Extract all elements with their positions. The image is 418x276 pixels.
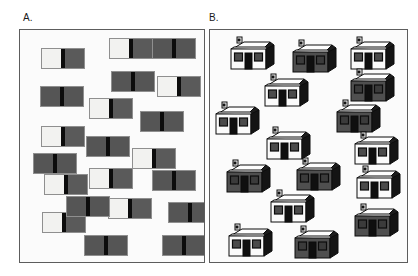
rectangle-right-half — [131, 39, 152, 58]
rectangle-centre-divider — [64, 175, 68, 194]
house-chimney-cap — [223, 104, 226, 107]
rectangle-left-half — [112, 72, 133, 91]
house-window-right — [379, 220, 387, 228]
house-door — [369, 148, 376, 164]
rectangle-left-half — [43, 213, 64, 232]
rectangle-centre-divider — [109, 169, 113, 188]
rectangle-right-half — [63, 49, 84, 68]
house-icon — [211, 100, 265, 140]
rectangle-left-half — [158, 77, 179, 96]
rectangle-left-half — [42, 127, 63, 146]
rectangle-right-half — [133, 72, 154, 91]
stimulus-rectangle — [41, 126, 85, 147]
rectangle-left-half — [141, 112, 162, 131]
house-side-wall — [264, 232, 272, 256]
house-icon — [350, 202, 404, 242]
house-icon — [352, 164, 406, 204]
house-window-right — [253, 240, 261, 248]
house-side-wall — [392, 174, 400, 198]
stimulus-house — [260, 72, 314, 112]
house-window-right — [361, 116, 369, 124]
house-window-left — [301, 174, 309, 182]
house-window-left — [269, 90, 277, 98]
house-door — [285, 206, 292, 222]
stimulus-house — [352, 164, 406, 204]
rectangle-centre-divider — [152, 149, 156, 168]
house-window-right — [381, 182, 389, 190]
rectangle-right-half — [174, 39, 195, 58]
rectangle-right-half — [154, 149, 175, 168]
rectangle-centre-divider — [104, 236, 108, 255]
rectangle-centre-divider — [182, 236, 186, 255]
rectangle-left-half — [34, 154, 55, 173]
stimulus-rectangle — [152, 38, 196, 59]
rectangle-right-half — [66, 175, 87, 194]
stimulus-rectangle — [132, 148, 176, 169]
stimulus-rectangle — [40, 86, 84, 107]
rectangle-centre-divider — [60, 87, 64, 106]
house-chimney-cap — [278, 192, 281, 195]
house-window-right — [291, 143, 299, 151]
rectangle-left-half — [67, 197, 88, 216]
house-window-right — [240, 118, 248, 126]
house-chimney-cap — [304, 160, 307, 163]
house-side-wall — [390, 212, 398, 236]
house-window-right — [319, 242, 327, 250]
house-chimney-cap — [362, 134, 365, 137]
house-window-left — [359, 148, 367, 156]
house-window-left — [271, 143, 279, 151]
rectangle-right-half — [111, 169, 132, 188]
house-window-right — [317, 56, 325, 64]
rectangle-left-half — [153, 171, 174, 190]
house-side-wall — [390, 140, 398, 164]
house-icon — [290, 224, 344, 263]
stimulus-rectangle — [89, 98, 133, 119]
house-chimney-cap — [234, 162, 237, 165]
rectangle-centre-divider — [53, 154, 57, 173]
rectangle-left-half — [85, 236, 106, 255]
stimulus-rectangle — [86, 136, 130, 157]
rectangle-centre-divider — [109, 99, 113, 118]
house-chimney-cap — [236, 226, 239, 229]
stimulus-rectangle — [168, 202, 205, 223]
rectangle-right-half — [130, 199, 151, 218]
house-window-left — [341, 116, 349, 124]
house-window-right — [375, 85, 383, 93]
house-window-left — [361, 182, 369, 190]
house-door — [230, 118, 237, 134]
stimulus-rectangle — [41, 48, 85, 69]
rectangle-right-half — [111, 99, 132, 118]
house-window-right — [379, 148, 387, 156]
stimulus-house — [211, 100, 265, 140]
rectangle-centre-divider — [61, 127, 65, 146]
house-chimney-cap — [344, 102, 347, 105]
house-chimney-cap — [358, 71, 361, 74]
house-window-right — [375, 53, 383, 61]
rectangle-left-half — [41, 87, 62, 106]
house-chimney-cap — [272, 76, 275, 79]
rectangle-centre-divider — [172, 171, 176, 190]
house-window-right — [321, 174, 329, 182]
stimulus-rectangle — [108, 198, 152, 219]
house-window-right — [255, 53, 263, 61]
figure-root: A. B. — [0, 0, 418, 276]
rectangle-right-half — [55, 154, 76, 173]
rectangle-centre-divider — [61, 49, 65, 68]
house-side-wall — [266, 45, 274, 69]
stimulus-rectangle — [89, 168, 133, 189]
house-side-wall — [328, 48, 336, 72]
house-side-wall — [306, 198, 314, 222]
stimulus-house — [224, 222, 278, 262]
stimulus-rectangle — [33, 153, 77, 174]
house-window-left — [355, 85, 363, 93]
rectangle-right-half — [174, 171, 195, 190]
house-chimney-cap — [238, 39, 241, 42]
rectangle-left-half — [45, 175, 66, 194]
panel-a-frame — [19, 29, 205, 263]
rectangle-left-half — [90, 169, 111, 188]
rectangle-centre-divider — [188, 203, 192, 222]
rectangle-left-half — [87, 137, 108, 156]
house-chimney-cap — [300, 42, 303, 45]
house-window-left — [231, 176, 239, 184]
panel-b-label: B. — [209, 13, 219, 23]
